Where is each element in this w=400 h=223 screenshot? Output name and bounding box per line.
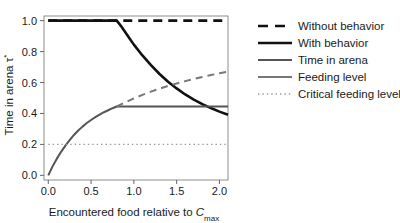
chart-legend: Without behaviorWith behaviorTime in are… — [258, 20, 400, 100]
y-tick-label: 0.2 — [22, 138, 37, 150]
y-tick-label: 0.6 — [22, 77, 37, 89]
series-group — [48, 21, 228, 176]
x-tick-label: 0.0 — [41, 185, 56, 197]
legend-label: Without behavior — [298, 20, 384, 32]
legend-label: Time in arena — [298, 54, 368, 66]
series-line — [48, 107, 228, 176]
legend-label: Critical feeding level — [298, 88, 400, 100]
legend-label: With behavior — [298, 37, 368, 49]
x-tick-label: 1.5 — [169, 185, 184, 197]
y-axis-title: Time in arena τ* — [2, 55, 16, 136]
y-tick-label: 0.4 — [22, 107, 37, 119]
x-axis-title: Encountered food relative to Cmax — [49, 206, 219, 223]
plot-frame — [44, 16, 228, 180]
x-tick-label: 1.0 — [126, 185, 141, 197]
y-tick-label: 0.8 — [22, 46, 37, 58]
series-line — [117, 72, 228, 107]
axis-ticks — [40, 21, 219, 184]
chart-canvas: 0.00.51.01.52.00.00.20.40.60.81.0 Withou… — [0, 0, 400, 223]
x-tick-label: 2.0 — [212, 185, 227, 197]
legend-label: Feeding level — [298, 71, 366, 83]
y-tick-label: 0.0 — [22, 169, 37, 181]
y-tick-label: 1.0 — [22, 15, 37, 27]
x-tick-label: 0.5 — [83, 185, 98, 197]
series-line — [48, 21, 228, 115]
chart-figure: 0.00.51.01.52.00.00.20.40.60.81.0 Withou… — [0, 0, 400, 223]
